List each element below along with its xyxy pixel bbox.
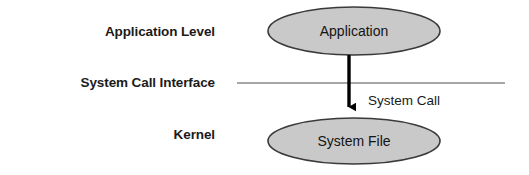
system-file-node-label: System File: [317, 133, 390, 149]
node-system-file: System File: [268, 118, 440, 164]
system-call-edge-label: System Call: [368, 93, 440, 108]
node-application: Application: [268, 7, 440, 55]
application-node-label: Application: [320, 23, 389, 39]
system-call-diagram: Application Level System Call Interface …: [0, 0, 529, 175]
diagram-canvas: Application System Call System File: [0, 0, 529, 175]
